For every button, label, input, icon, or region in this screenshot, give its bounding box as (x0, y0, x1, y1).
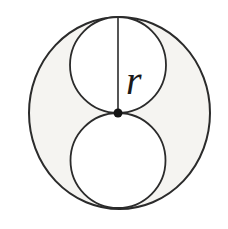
bottom-inner-circle (71, 113, 166, 208)
center-tangency-dot (114, 109, 123, 118)
figure-canvas: r (0, 0, 228, 229)
radius-label: r (126, 58, 142, 103)
tangent-circles-figure: r (0, 0, 228, 229)
